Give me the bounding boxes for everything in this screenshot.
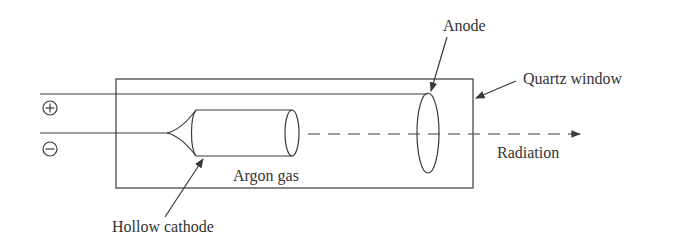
negative-terminal-icon (43, 142, 57, 156)
anode-ring (417, 93, 439, 173)
positive-terminal-icon (43, 101, 57, 115)
hollow-cathode-lamp-diagram: Anode Quartz window Radiation Argon gas … (0, 0, 688, 243)
quartz-window-leader-arrow (476, 81, 516, 98)
hollow-cathode-label: Hollow cathode (112, 218, 214, 235)
anode-label: Anode (443, 17, 486, 34)
anode-leader-arrow (431, 37, 447, 91)
hollow-cathode (167, 110, 299, 156)
quartz-window-label: Quartz window (523, 70, 623, 87)
radiation-label: Radiation (497, 144, 559, 161)
argon-gas-label: Argon gas (233, 167, 299, 185)
